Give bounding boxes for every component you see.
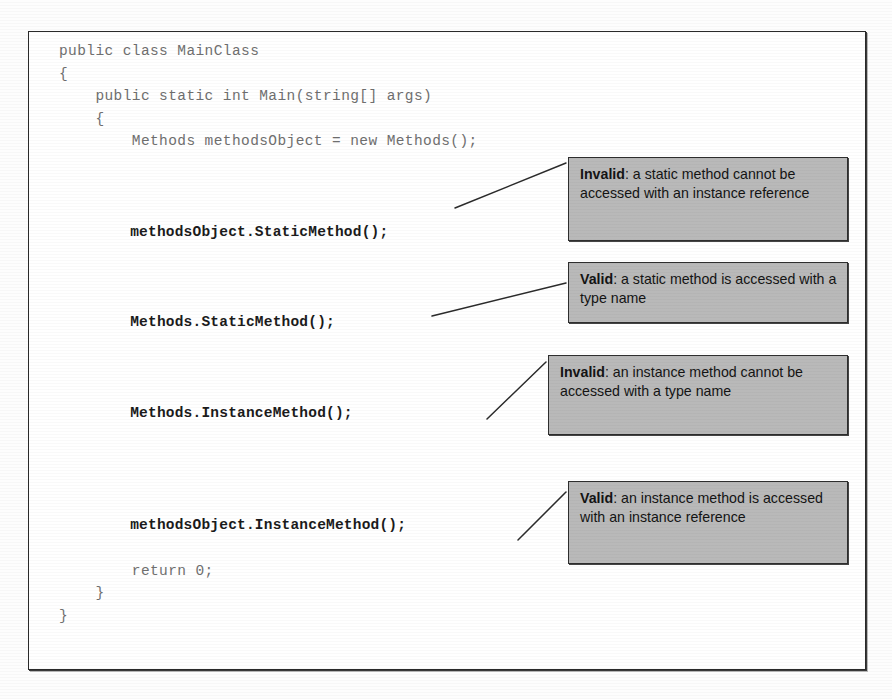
code-line-highlighted: methodsObject.StaticMethod(); bbox=[59, 221, 478, 244]
code-line bbox=[59, 153, 478, 176]
code-line-highlighted: Methods.StaticMethod(); bbox=[59, 311, 478, 334]
code-line bbox=[59, 469, 478, 492]
callout-box-valid-instance: Valid: an instance method is accessed wi… bbox=[568, 481, 848, 564]
code-line bbox=[59, 537, 478, 560]
code-listing: public class MainClass{ public static in… bbox=[59, 40, 478, 650]
code-line bbox=[59, 334, 478, 357]
code-line bbox=[59, 198, 478, 221]
scanned-page: public class MainClass{ public static in… bbox=[0, 0, 892, 699]
callout-box-valid-static: Valid: a static method is accessed with … bbox=[568, 262, 848, 323]
callout-separator: : bbox=[613, 490, 621, 506]
code-line bbox=[59, 492, 478, 515]
code-line: { bbox=[59, 108, 478, 131]
callout-lead-label: Invalid bbox=[560, 364, 605, 380]
code-line bbox=[59, 424, 478, 447]
callout-lead-label: Invalid bbox=[580, 166, 625, 182]
code-line bbox=[59, 266, 478, 289]
code-line bbox=[59, 176, 478, 199]
callout-box-invalid-static: Invalid: a static method cannot be acces… bbox=[568, 157, 848, 241]
code-line bbox=[59, 289, 478, 312]
callout-separator: : bbox=[613, 271, 621, 287]
code-listing-frame: public class MainClass{ public static in… bbox=[28, 31, 866, 670]
code-line-highlighted: methodsObject.InstanceMethod(); bbox=[59, 514, 478, 537]
code-line-highlighted: Methods.InstanceMethod(); bbox=[59, 402, 478, 425]
code-line bbox=[59, 379, 478, 402]
code-line bbox=[59, 356, 478, 379]
code-line: public static int Main(string[] args) bbox=[59, 85, 478, 108]
code-line bbox=[59, 447, 478, 470]
code-line: Methods methodsObject = new Methods(); bbox=[59, 130, 478, 153]
code-line: } bbox=[59, 605, 478, 628]
callout-separator: : bbox=[625, 166, 633, 182]
callout-lead-label: Valid bbox=[580, 271, 613, 287]
code-line: } bbox=[59, 582, 478, 605]
callout-box-invalid-instance: Invalid: an instance method cannot be ac… bbox=[548, 355, 848, 435]
code-line: return 0; bbox=[59, 560, 478, 583]
callout-separator: : bbox=[605, 364, 613, 380]
callout-lead-label: Valid bbox=[580, 490, 613, 506]
code-line: public class MainClass bbox=[59, 40, 478, 63]
code-line bbox=[59, 627, 478, 650]
code-line bbox=[59, 243, 478, 266]
code-line: { bbox=[59, 63, 478, 86]
